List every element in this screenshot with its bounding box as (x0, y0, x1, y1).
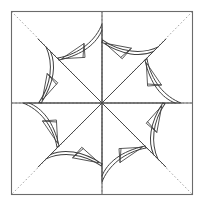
figure-canvas: Eight-pointed curved star quilt block li… (0, 0, 203, 205)
star-spokes (24, 25, 180, 181)
star-block-drawing: Eight-pointed curved star quilt block li… (0, 0, 203, 205)
